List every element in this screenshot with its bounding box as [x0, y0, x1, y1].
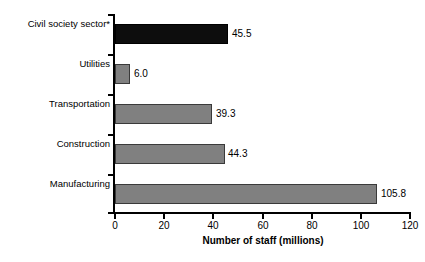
- bar-row: 45.5: [115, 14, 411, 54]
- bar-chart: Civil society sector* Utilities Transpor…: [0, 0, 425, 262]
- category-label-utilities: Utilities: [2, 54, 110, 74]
- category-axis-labels: Civil society sector* Utilities Transpor…: [0, 14, 110, 213]
- y-axis-tick: [108, 134, 114, 136]
- bar-value-utilities: 6.0: [134, 65, 148, 83]
- bar-row: 105.8: [115, 174, 411, 214]
- x-axis-tick-label: 60: [243, 219, 283, 233]
- bar-transportation[interactable]: [115, 104, 212, 124]
- bar-value-civil-society-sector: 45.5: [232, 25, 251, 43]
- y-axis-tick: [108, 94, 114, 96]
- y-axis-tick: [108, 174, 114, 176]
- x-axis-tick-label: 20: [144, 219, 184, 233]
- x-axis-tick-label: 80: [292, 219, 332, 233]
- y-axis-tick: [108, 54, 114, 56]
- bar-manufacturing[interactable]: [115, 184, 377, 204]
- bar-civil-society-sector[interactable]: [115, 24, 228, 44]
- x-axis-title: Number of staff (millions): [115, 235, 411, 246]
- x-axis-tick-label: 40: [193, 219, 233, 233]
- x-axis-tick-label: 0: [95, 219, 135, 233]
- y-axis-tick: [108, 14, 114, 16]
- category-label-transportation: Transportation: [2, 94, 110, 114]
- category-label-manufacturing: Manufacturing: [2, 174, 110, 194]
- bar-row: 39.3: [115, 94, 411, 134]
- bar-row: 6.0: [115, 54, 411, 94]
- category-label-civil-society-sector: Civil society sector*: [2, 14, 110, 34]
- x-axis-tick-label: 120: [390, 219, 425, 233]
- bar-value-transportation: 39.3: [216, 105, 235, 123]
- bar-value-construction: 44.3: [228, 145, 247, 163]
- bar-construction[interactable]: [115, 144, 225, 164]
- x-axis-tick-label: 100: [341, 219, 381, 233]
- bar-row: 44.3: [115, 134, 411, 174]
- plot-area: 45.5 6.0 39.3 44.3 105.8: [115, 14, 411, 213]
- bar-utilities[interactable]: [115, 64, 130, 84]
- category-label-construction: Construction: [2, 134, 110, 154]
- bar-value-manufacturing: 105.8: [381, 185, 406, 203]
